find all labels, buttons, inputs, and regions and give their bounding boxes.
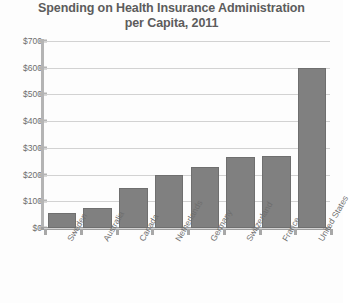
gridline: [44, 94, 330, 95]
x-axis-tick-mark: [116, 229, 119, 235]
chart-title-line-1: Spending on Health Insurance Administrat…: [38, 1, 305, 15]
x-axis-tick-mark: [187, 229, 190, 235]
y-axis-tick-label: $700: [4, 36, 42, 46]
y-axis-tick-label: $300: [4, 143, 42, 153]
y-axis: $700$600$500$400$300$200$100$0: [0, 0, 42, 303]
x-axis-tick-mark: [330, 229, 333, 235]
plot-area: [44, 41, 330, 228]
bar: [155, 175, 184, 228]
bar: [119, 188, 148, 228]
x-axis-tick-mark: [151, 229, 154, 235]
gridline: [44, 41, 330, 42]
gridline: [44, 68, 330, 69]
y-axis-tick-label: $200: [4, 170, 42, 180]
y-axis-tick-label: $100: [4, 196, 42, 206]
gridline: [44, 121, 330, 122]
x-axis-tick-mark: [44, 229, 47, 235]
chart-title-line-2: per Capita, 2011: [8, 16, 335, 31]
y-axis-tick-label: $600: [4, 63, 42, 73]
bar: [298, 68, 327, 228]
y-axis-tick-label: $400: [4, 116, 42, 126]
x-axis-tick-mark: [259, 229, 262, 235]
y-axis-tick-label: $500: [4, 89, 42, 99]
gridline: [44, 148, 330, 149]
x-axis-tick-mark: [294, 229, 297, 235]
y-axis-tick-label: $0: [4, 223, 42, 233]
x-axis-tick-mark: [80, 229, 83, 235]
chart-title: Spending on Health Insurance Administrat…: [8, 1, 335, 31]
x-axis-tick-mark: [223, 229, 226, 235]
